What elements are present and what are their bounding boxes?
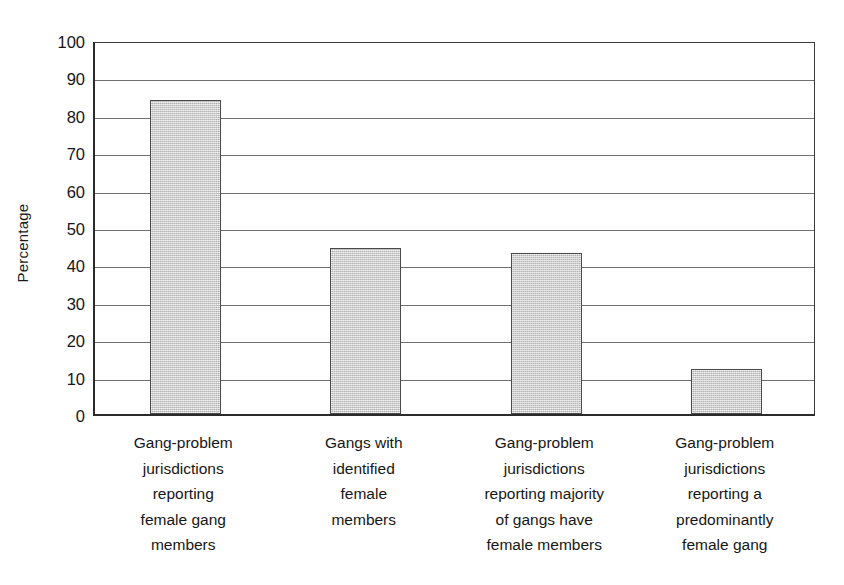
x-label-3: Gang-problemjurisdictionsreporting apred… xyxy=(635,430,816,558)
x-label-line: reporting a xyxy=(635,481,816,507)
y-tick-label-40: 40 xyxy=(37,258,85,274)
x-label-line: Gang-problem xyxy=(454,430,635,456)
y-tick-label-70: 70 xyxy=(37,146,85,162)
x-label-line: jurisdictions xyxy=(93,456,274,482)
bar-0 xyxy=(150,100,221,414)
y-tick-label-10: 10 xyxy=(37,371,85,387)
y-tick-label-60: 60 xyxy=(37,184,85,200)
x-label-line: Gang-problem xyxy=(635,430,816,456)
x-label-line: female members xyxy=(454,532,635,558)
x-label-2: Gang-problemjurisdictionsreporting major… xyxy=(454,430,635,558)
x-label-1: Gangs withidentifiedfemalemembers xyxy=(274,430,455,532)
plot-area xyxy=(93,42,815,416)
x-label-line: members xyxy=(274,507,455,533)
x-label-line: Gang-problem xyxy=(93,430,274,456)
bar-1 xyxy=(330,248,401,414)
x-label-0: Gang-problemjurisdictionsreportingfemale… xyxy=(93,430,274,558)
y-tick-label-90: 90 xyxy=(37,71,85,87)
x-label-line: jurisdictions xyxy=(454,456,635,482)
x-label-line: of gangs have xyxy=(454,507,635,533)
x-label-line: reporting xyxy=(93,481,274,507)
y-tick-label-20: 20 xyxy=(37,333,85,349)
x-label-line: predominantly xyxy=(635,507,816,533)
bar-2 xyxy=(511,253,582,414)
y-axis-tick-labels: 1009080706050403020100 xyxy=(30,42,85,416)
y-tick-label-80: 80 xyxy=(37,109,85,125)
x-label-line: members xyxy=(93,532,274,558)
x-label-line: reporting majority xyxy=(454,481,635,507)
y-tick-label-30: 30 xyxy=(37,296,85,312)
bar-chart: Percentage 1009080706050403020100 Gang-p… xyxy=(0,0,844,585)
y-tick-label-100: 100 xyxy=(37,34,85,50)
y-tick-label-50: 50 xyxy=(37,221,85,237)
x-label-line: female gang xyxy=(93,507,274,533)
y-tick-label-0: 0 xyxy=(37,408,85,424)
x-axis-category-labels: Gang-problemjurisdictionsreportingfemale… xyxy=(93,430,815,580)
x-label-line: female gang xyxy=(635,532,816,558)
x-label-line: jurisdictions xyxy=(635,456,816,482)
x-label-line: Gangs with xyxy=(274,430,455,456)
x-label-line: female xyxy=(274,481,455,507)
x-label-line: identified xyxy=(274,456,455,482)
bar-3 xyxy=(691,369,762,414)
gridline-90 xyxy=(95,80,814,81)
